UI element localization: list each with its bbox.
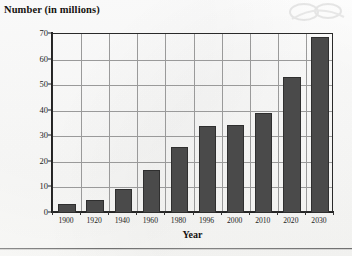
x-axis-tick-label: 1940 — [115, 216, 130, 225]
y-axis-tick-label: 40 — [18, 105, 48, 115]
bar — [311, 37, 328, 213]
plot-inner — [53, 34, 332, 211]
watermark-smudge-icon — [288, 1, 348, 23]
y-axis-tick-mark — [48, 33, 52, 34]
y-axis-tick-mark — [48, 58, 52, 59]
gridline-horizontal — [53, 60, 332, 61]
x-axis-tick-label: 2020 — [283, 216, 298, 225]
bar — [199, 126, 216, 213]
x-axis-tick-mark — [249, 212, 250, 215]
bar — [283, 77, 300, 213]
y-axis-tick-label: 0 — [18, 207, 48, 217]
x-axis-tick-label: 1900 — [58, 216, 73, 225]
gridline-vertical — [165, 34, 166, 211]
y-axis-tick-label: 50 — [18, 79, 48, 89]
gridline-vertical — [81, 34, 82, 211]
x-axis-tick-mark — [221, 212, 222, 215]
y-axis-tick-mark — [48, 109, 52, 110]
y-axis-tick-label: 20 — [18, 156, 48, 166]
bar — [143, 170, 160, 213]
bar — [171, 147, 188, 213]
bar — [255, 113, 272, 213]
bar — [227, 125, 244, 213]
gridline-vertical — [306, 34, 307, 211]
chart-page: Number (in millions) 010203040506070 Yea… — [0, 0, 352, 256]
x-axis-tick-mark — [305, 212, 306, 215]
x-axis-tick-mark — [333, 212, 334, 215]
y-axis-tick-mark — [48, 84, 52, 85]
gridline-vertical — [278, 34, 279, 211]
y-axis-tick-label: 60 — [18, 54, 48, 64]
x-axis-tick-mark — [164, 212, 165, 215]
x-axis-tick-label: 2010 — [255, 216, 270, 225]
y-axis-tick-mark — [48, 186, 52, 187]
x-axis-title: Year — [52, 229, 333, 240]
y-axis-tick-mark — [48, 135, 52, 136]
bar — [58, 204, 75, 213]
x-axis-tick-mark — [193, 212, 194, 215]
x-axis-tick-label: 2030 — [311, 216, 326, 225]
x-axis-tick-mark — [80, 212, 81, 215]
y-axis-tick-mark — [48, 160, 52, 161]
plot-area — [52, 33, 333, 212]
y-axis-tick-label: 30 — [18, 130, 48, 140]
y-axis-tick-label: 10 — [18, 181, 48, 191]
x-axis-tick-label: 1996 — [199, 216, 214, 225]
gridline-vertical — [250, 34, 251, 211]
x-axis-tick-label: 1920 — [87, 216, 102, 225]
bar — [115, 189, 132, 213]
gridline-vertical — [137, 34, 138, 211]
bar — [86, 200, 103, 213]
x-axis-tick-mark — [277, 212, 278, 215]
gridline-vertical — [194, 34, 195, 211]
x-axis-tick-mark — [136, 212, 137, 215]
x-axis-tick-label: 2000 — [227, 216, 242, 225]
gridline-vertical — [222, 34, 223, 211]
x-axis-tick-mark — [52, 212, 53, 215]
y-axis-tick-label: 70 — [18, 28, 48, 38]
x-axis-tick-label: 1960 — [143, 216, 158, 225]
gridline-vertical — [109, 34, 110, 211]
page-bottom-rule-shadow — [0, 249, 352, 250]
x-axis-tick-mark — [108, 212, 109, 215]
x-axis-tick-label: 1980 — [171, 216, 186, 225]
y-axis-tick-labels: 010203040506070 — [14, 0, 48, 256]
